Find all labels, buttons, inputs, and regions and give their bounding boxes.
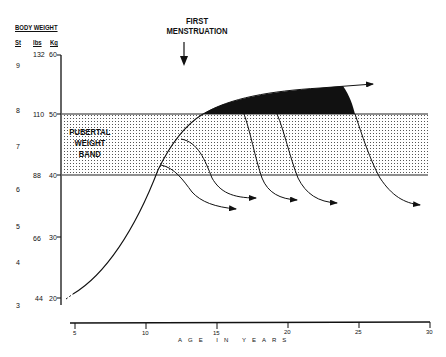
annotation-line2: MENSTRUATION <box>163 26 231 36</box>
band-label: PUBERTAL WEIGHT BAND <box>66 127 114 160</box>
x-tick-5: 5 <box>73 330 76 336</box>
chart-plot <box>0 0 446 357</box>
menstruation-arrowhead <box>180 56 188 66</box>
band-label-line1: PUBERTAL <box>66 127 114 138</box>
x-tick-30: 30 <box>426 329 433 335</box>
excess-weight-region <box>203 86 355 114</box>
band-label-line3: BAND <box>66 149 114 160</box>
growth-curve-dashed <box>66 294 73 299</box>
annotation-line1: FIRST <box>163 16 231 26</box>
x-tick-15: 15 <box>213 330 220 336</box>
x-tick-10: 10 <box>142 330 149 336</box>
x-axis <box>70 322 430 323</box>
pubertal-weight-band <box>62 114 428 175</box>
first-menstruation-annotation: FIRST MENSTRUATION <box>163 16 231 36</box>
band-label-line2: WEIGHT <box>66 138 114 149</box>
x-axis-title: AGE IN YEARS <box>178 337 292 343</box>
x-tick-25: 25 <box>355 329 362 335</box>
x-tick-20: 20 <box>284 329 291 335</box>
